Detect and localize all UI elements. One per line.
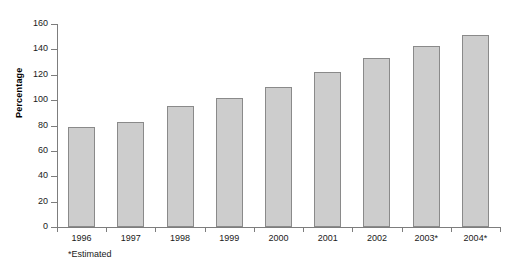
y-axis-tick-label: 140 — [33, 43, 48, 54]
y-axis-tick-label: 0 — [43, 221, 48, 232]
bar — [265, 87, 292, 227]
y-axis-tick-label: 120 — [33, 69, 48, 80]
x-axis-tick — [500, 227, 501, 232]
x-axis-tick-label: 2000 — [254, 232, 303, 244]
y-axis-tick-label: 40 — [38, 170, 48, 181]
y-axis-tick-label: 60 — [38, 145, 48, 156]
bar — [462, 35, 489, 227]
bar — [117, 122, 144, 227]
bar-chart-figure: Percentage 020406080100120140160 *Estima… — [0, 0, 520, 273]
y-axis-label: Percentage — [14, 48, 24, 118]
x-axis-tick-label: 2001 — [303, 232, 352, 244]
x-axis-tick-label: 2004* — [451, 232, 500, 244]
bar — [314, 72, 341, 227]
x-axis-tick-label: 1998 — [155, 232, 204, 244]
x-axis-tick-label: 2002 — [352, 232, 401, 244]
x-axis-tick-label: 1996 — [57, 232, 106, 244]
y-axis-tick: 140 — [51, 49, 57, 50]
y-axis-tick: 20 — [51, 202, 57, 203]
plot-area: 020406080100120140160 — [57, 24, 500, 227]
y-axis-tick: 160 — [51, 24, 57, 25]
y-axis-tick: 40 — [51, 176, 57, 177]
y-axis-tick: 100 — [51, 100, 57, 101]
y-axis-tick: 60 — [51, 151, 57, 152]
bar — [68, 127, 95, 227]
x-axis-tick-label: 1997 — [106, 232, 155, 244]
bar — [167, 106, 194, 227]
y-axis-tick: 80 — [51, 126, 57, 127]
x-axis-tick-label: 2003* — [402, 232, 451, 244]
x-axis-line — [57, 227, 501, 228]
y-axis-tick-label: 20 — [38, 196, 48, 207]
bar — [413, 46, 440, 227]
x-axis-tick-label: 1999 — [205, 232, 254, 244]
bar — [363, 58, 390, 227]
y-axis-tick-label: 100 — [33, 94, 48, 105]
chart-footnote: *Estimated — [68, 248, 112, 260]
y-axis-tick-label: 160 — [33, 18, 48, 29]
bar — [216, 98, 243, 227]
y-axis-tick: 120 — [51, 75, 57, 76]
y-axis-tick-label: 80 — [38, 120, 48, 131]
